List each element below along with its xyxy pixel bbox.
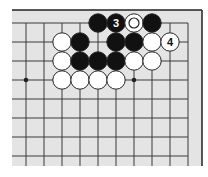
- stone-disc: [71, 33, 89, 51]
- stone-disc: [143, 14, 161, 32]
- stone-disc: [71, 52, 89, 70]
- white-stone: [89, 71, 107, 89]
- stone-disc: [125, 52, 143, 70]
- stone-disc: [71, 71, 89, 89]
- white-stone: [71, 71, 89, 89]
- star-point: [132, 78, 137, 83]
- black-stone: [71, 33, 89, 51]
- stone-disc: [53, 71, 71, 89]
- black-stone: [107, 33, 125, 51]
- stone-disc: [125, 14, 143, 32]
- stone-disc: [143, 52, 161, 70]
- stone-disc: [89, 71, 107, 89]
- stone-disc: [53, 52, 71, 70]
- black-stone: [89, 52, 107, 70]
- white-stone: [143, 52, 161, 70]
- white-stone: [125, 52, 143, 70]
- white-stone: [53, 33, 71, 51]
- white-stone: [53, 52, 71, 70]
- black-stone: [107, 52, 125, 70]
- go-board: 34: [0, 0, 208, 177]
- white-stone: 4: [161, 33, 179, 51]
- go-board-diagram: 34: [0, 0, 208, 177]
- white-stone: [125, 14, 143, 32]
- black-stone: [71, 52, 89, 70]
- stone-disc: [89, 14, 107, 32]
- white-stone: [143, 33, 161, 51]
- black-stone: 3: [107, 14, 125, 32]
- stone-disc: [125, 33, 143, 51]
- stone-disc: [107, 52, 125, 70]
- white-stone: [53, 71, 71, 89]
- white-stone: [107, 71, 125, 89]
- star-point: [24, 78, 29, 83]
- stone-disc: [53, 33, 71, 51]
- stone-disc: [107, 33, 125, 51]
- move-number-label: 3: [113, 17, 119, 29]
- black-stone: [143, 14, 161, 32]
- stone-disc: [143, 33, 161, 51]
- black-stone: [125, 33, 143, 51]
- black-stone: [89, 14, 107, 32]
- stone-disc: [107, 71, 125, 89]
- stone-disc: [89, 52, 107, 70]
- move-number-label: 4: [167, 36, 174, 48]
